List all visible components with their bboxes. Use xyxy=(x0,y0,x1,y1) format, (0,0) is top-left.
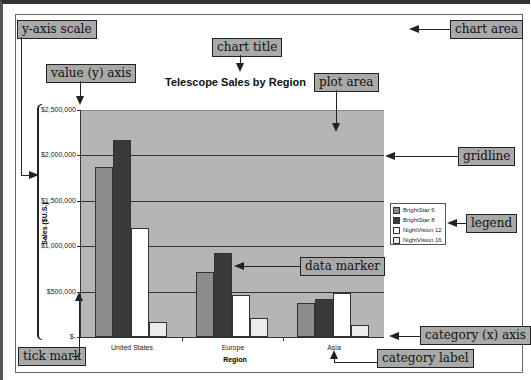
bar-nightvision16-us xyxy=(149,322,167,337)
arrow-icon xyxy=(236,63,244,72)
tick-mark xyxy=(182,337,183,341)
category-axis xyxy=(81,337,384,338)
bar-brightstar8-europe xyxy=(214,253,232,337)
arrow-icon xyxy=(389,332,399,340)
tick-mark xyxy=(77,201,81,202)
legend-swatch xyxy=(393,237,400,244)
y-tick-label: $2,500,000 xyxy=(22,106,76,113)
callout-chart-title: chart title xyxy=(212,38,282,57)
callout-leader xyxy=(394,156,458,157)
callout-data-marker: data marker xyxy=(300,257,385,276)
callout-y-axis-scale: y-axis scale xyxy=(17,20,97,39)
bar-brightstar6-us xyxy=(95,167,113,337)
legend-label: BrightStar 8 xyxy=(403,217,435,223)
value-axis xyxy=(80,110,81,338)
x-axis-title: Region xyxy=(210,356,260,363)
bar-nightvision12-us xyxy=(131,228,149,337)
tick-mark xyxy=(77,110,81,111)
bar-nightvision12-asia xyxy=(333,293,351,337)
category-label: United States xyxy=(82,344,182,351)
y-tick-label: $1,500,000 xyxy=(22,197,76,204)
callout-leader xyxy=(79,300,80,356)
arrow-icon xyxy=(330,350,338,359)
callout-leader xyxy=(21,37,22,175)
tick-mark xyxy=(77,155,81,156)
callout-leader xyxy=(72,356,80,357)
callout-plot-area: plot area xyxy=(314,73,379,92)
legend-item: NightVision 16 xyxy=(393,235,443,245)
callout-leader xyxy=(398,336,420,337)
y-tick-label: $2,000,000 xyxy=(22,151,76,158)
y-tick-label: $- xyxy=(22,333,76,340)
callout-value-axis: value (y) axis xyxy=(46,64,136,83)
legend-label: BrightStar 6 xyxy=(403,207,435,213)
y-axis-scale-brace xyxy=(37,104,42,340)
legend-item: BrightStar 8 xyxy=(393,215,443,225)
bar-brightstar6-asia xyxy=(297,303,315,337)
legend-swatch xyxy=(393,217,400,224)
y-tick-label: $500,000 xyxy=(22,288,76,295)
tick-mark xyxy=(77,246,81,247)
arrow-icon xyxy=(234,262,244,270)
callout-gridline: gridline xyxy=(458,147,515,166)
callout-leader xyxy=(334,362,377,363)
legend-swatch xyxy=(393,227,400,234)
callout-category-axis: category (x) axis xyxy=(420,326,531,345)
category-label: Europe xyxy=(183,344,283,351)
bar-brightstar6-europe xyxy=(196,272,214,337)
legend: BrightStar 6 BrightStar 8 NightVision 12… xyxy=(390,203,446,245)
callout-legend: legend xyxy=(466,214,517,233)
arrow-icon xyxy=(409,25,419,33)
arrow-icon xyxy=(447,219,457,227)
y-tick-label: $1,000,000 xyxy=(22,242,76,249)
bar-nightvision12-europe xyxy=(232,295,250,337)
callout-leader xyxy=(243,266,300,267)
arrow-icon xyxy=(385,152,395,160)
callout-leader xyxy=(456,223,466,224)
callout-leader xyxy=(418,29,450,30)
legend-label: NightVision 16 xyxy=(403,237,442,243)
legend-swatch xyxy=(393,207,400,214)
bar-brightstar8-us xyxy=(113,140,131,337)
tick-mark xyxy=(283,337,284,341)
callout-leader xyxy=(336,90,337,124)
callout-chart-area: chart area xyxy=(450,20,523,39)
bar-brightstar8-asia xyxy=(315,299,333,337)
legend-label: NightVision 12 xyxy=(403,227,442,233)
legend-item: NightVision 12 xyxy=(393,225,443,235)
arrow-icon xyxy=(332,123,340,132)
chart-title: Telescope Sales by Region xyxy=(165,76,306,88)
bar-nightvision16-asia xyxy=(351,325,369,337)
legend-item: BrightStar 6 xyxy=(393,205,443,215)
arrow-icon xyxy=(76,96,84,105)
arrow-icon xyxy=(29,171,39,179)
arrow-icon xyxy=(75,292,83,301)
callout-category-label: category label xyxy=(377,349,474,368)
bar-nightvision16-europe xyxy=(250,318,268,337)
